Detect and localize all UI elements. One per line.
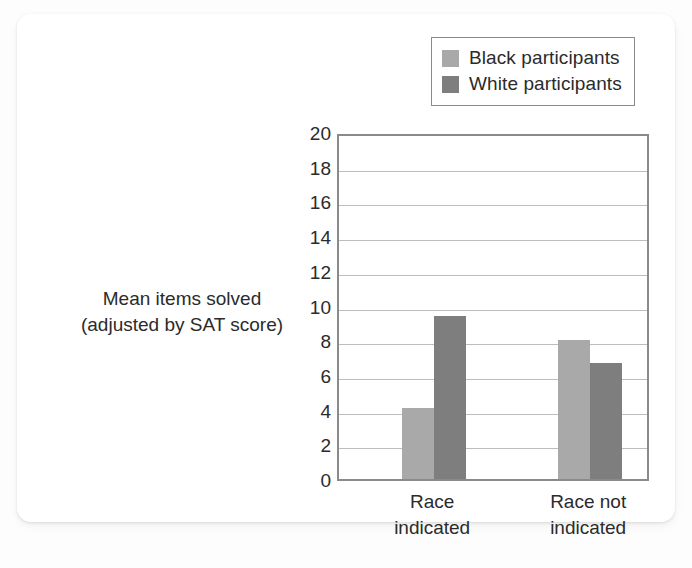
bar-black-participants-group-2 <box>558 340 590 479</box>
x-axis-group-label-line-1: Race <box>352 489 512 515</box>
y-tick-label: 12 <box>291 262 331 284</box>
y-tick-label: 8 <box>291 331 331 353</box>
y-tick-label: 10 <box>291 297 331 319</box>
gridline <box>339 344 647 345</box>
gridline <box>339 205 647 206</box>
gridline <box>339 240 647 241</box>
x-axis-group-label-line-1: Race not <box>508 489 668 515</box>
x-axis-group-label-line-2: indicated <box>352 515 512 541</box>
gridline <box>339 310 647 311</box>
legend-swatch-black-participants <box>442 50 459 67</box>
legend-label-black-participants: Black participants <box>469 47 620 69</box>
chart-legend: Black participants White participants <box>431 37 635 106</box>
x-axis-group-label: Race notindicated <box>508 489 668 541</box>
y-axis-tick-labels: 02468101214161820 <box>285 134 331 481</box>
figure-card: Black participants White participants Me… <box>17 14 675 522</box>
bar-white-participants-group-1 <box>434 316 466 479</box>
y-tick-label: 0 <box>291 470 331 492</box>
y-axis-title: Mean items solved (adjusted by SAT score… <box>57 286 307 338</box>
gridline <box>339 275 647 276</box>
x-axis-group-label: Raceindicated <box>352 489 512 541</box>
y-tick-label: 14 <box>291 227 331 249</box>
bar-white-participants-group-2 <box>590 363 622 479</box>
y-axis-title-line-2: (adjusted by SAT score) <box>57 312 307 338</box>
y-axis-title-line-1: Mean items solved <box>57 286 307 312</box>
plot-wrapper: 02468101214161820 RaceindicatedRace noti… <box>337 134 649 481</box>
gridline <box>339 171 647 172</box>
y-tick-label: 18 <box>291 158 331 180</box>
y-tick-label: 4 <box>291 401 331 423</box>
y-tick-label: 16 <box>291 192 331 214</box>
legend-item-white-participants: White participants <box>442 71 622 97</box>
plot-area <box>337 134 649 481</box>
bar-black-participants-group-1 <box>402 408 434 479</box>
x-axis-group-label-line-2: indicated <box>508 515 668 541</box>
legend-swatch-white-participants <box>442 76 459 93</box>
y-tick-label: 2 <box>291 435 331 457</box>
legend-label-white-participants: White participants <box>469 73 622 95</box>
y-tick-label: 6 <box>291 366 331 388</box>
legend-item-black-participants: Black participants <box>442 45 622 71</box>
y-tick-label: 20 <box>291 123 331 145</box>
